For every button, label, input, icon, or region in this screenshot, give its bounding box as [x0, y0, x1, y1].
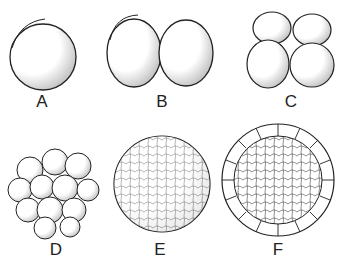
panel-e-blastula-surface [114, 136, 210, 232]
label-f: F [263, 240, 293, 260]
panel-d-morula [8, 149, 99, 239]
panel-c-four-cell [247, 12, 334, 88]
cleavage-diagram [0, 0, 341, 262]
panel-a-zygote [10, 19, 76, 90]
panel-f-blastula-section [222, 124, 334, 236]
label-e: E [145, 240, 175, 260]
label-d: D [41, 240, 71, 260]
label-c: C [276, 92, 306, 112]
label-a: A [27, 92, 57, 112]
panel-b-two-cell [107, 15, 213, 87]
label-b: B [147, 92, 177, 112]
